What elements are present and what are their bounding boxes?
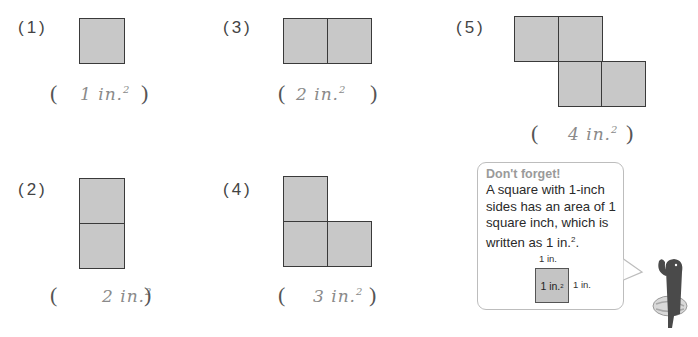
problem-5-number: (5) (456, 18, 486, 38)
unit-square (514, 16, 559, 62)
reminder-note-box: Don't forget! A square with 1-inch sides… (477, 162, 624, 310)
problem-1-answer[interactable]: 1 in.2 (80, 84, 130, 104)
answer-exponent: 2 (356, 286, 363, 297)
problem-4-answer[interactable]: 3 in.2 (313, 286, 363, 306)
bear-mascot-icon (646, 254, 696, 334)
answer-paren-close: ) (626, 120, 633, 146)
unit-square (283, 221, 328, 267)
answer-paren-close: ) (144, 282, 151, 308)
problem-2-number: (2) (18, 180, 48, 200)
unit-square (79, 223, 125, 269)
diagram-top-label: 1 in. (539, 253, 557, 264)
answer-paren-close: ) (369, 282, 376, 308)
note-period: . (575, 235, 579, 250)
diagram-unit-square: 1 in.2 (535, 268, 569, 303)
answer-paren-close: ) (370, 80, 377, 106)
diagram-square-exponent: 2 (560, 283, 563, 289)
unit-square (327, 18, 372, 64)
answer-paren-close: ) (141, 80, 148, 106)
answer-paren-open: ( (278, 282, 285, 308)
answer-text: 4 in. (568, 124, 611, 144)
diagram-square-label: 1 in. (540, 280, 560, 292)
answer-paren-open: ( (50, 282, 57, 308)
problem-3-answer[interactable]: 2 in.2 (296, 84, 346, 104)
answer-paren-open: ( (531, 120, 538, 146)
problem-4-number: (4) (223, 180, 253, 200)
note-title: Don't forget! (486, 167, 560, 181)
note-text: A square with 1-inch sides has an area o… (486, 182, 616, 250)
note-body: A square with 1-inch sides has an area o… (486, 182, 622, 251)
unit-square (283, 18, 328, 64)
problem-3-number: (3) (223, 18, 253, 38)
answer-paren-open: ( (278, 80, 285, 106)
answer-exponent: 2 (611, 124, 618, 135)
answer-text: 3 in. (313, 286, 356, 306)
unit-square (558, 61, 603, 107)
answer-exponent: 2 (123, 84, 130, 95)
answer-text: 2 in. (102, 286, 145, 306)
answer-text: 2 in. (296, 84, 339, 104)
answer-text: 1 in. (80, 84, 123, 104)
unit-square (601, 61, 646, 107)
speech-bubble-tail (622, 258, 646, 284)
unit-square (558, 16, 603, 62)
problem-5-answer[interactable]: 4 in.2 (568, 124, 618, 144)
answer-paren-open: ( (50, 80, 57, 106)
answer-exponent: 2 (339, 84, 346, 95)
diagram-side-label: 1 in. (573, 279, 591, 290)
unit-square (79, 178, 125, 224)
unit-square (283, 176, 328, 222)
problem-1-number: (1) (18, 18, 48, 38)
unit-square (327, 221, 372, 267)
unit-square (79, 18, 125, 64)
